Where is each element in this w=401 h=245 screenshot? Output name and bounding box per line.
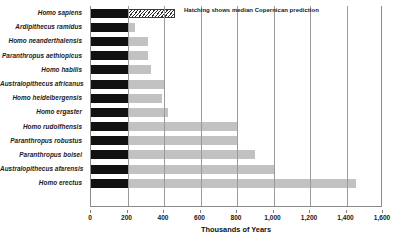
bar-segment-total [128, 108, 168, 117]
bar-segment-elapsed [91, 80, 128, 89]
bar-segment-elapsed [91, 94, 128, 103]
bar-row [91, 20, 381, 34]
x-axis-tick-label: 200 [121, 214, 132, 221]
category-label: Paranthropus aethiopicus [0, 49, 86, 63]
gridline [164, 6, 165, 206]
bar-segment-total [128, 37, 148, 46]
bar-segment-elapsed [91, 165, 128, 174]
x-axis-tick-mark [236, 210, 237, 213]
gridline [347, 6, 348, 206]
bar-segment-total [128, 94, 163, 103]
bar-segment-total [128, 122, 238, 131]
bar-row [91, 34, 381, 48]
bar-row [91, 49, 381, 63]
x-axis-tick-mark [382, 210, 383, 213]
x-axis-tick-label: 1,400 [337, 214, 354, 221]
x-axis-tick-label: 600 [194, 214, 205, 221]
gridline [237, 6, 238, 206]
x-axis-tick-label: 800 [230, 214, 241, 221]
bar-segment-elapsed [91, 65, 128, 74]
x-axis-line [90, 206, 382, 207]
bar-row [91, 176, 381, 190]
bar-segment-total [128, 80, 165, 89]
bar-segment-copernican-prediction [128, 9, 175, 18]
bar-segment-elapsed [91, 179, 128, 188]
bar-segment-elapsed [91, 150, 128, 159]
bar-row [91, 148, 381, 162]
bar-segment-total [128, 51, 148, 60]
bar-row [91, 63, 381, 77]
hatching-annotation: Hatching shows median Copernican predict… [184, 7, 319, 13]
bar-segment-elapsed [91, 9, 128, 18]
category-label: Homo ergaster [0, 105, 86, 119]
bar-row [91, 91, 381, 105]
bar-segment-elapsed [91, 108, 128, 117]
category-label: Australopithecus afarensis [0, 162, 86, 176]
category-label: Homo habilis [0, 63, 86, 77]
bar-row [91, 162, 381, 176]
category-label: Paranthropus boisei [0, 148, 86, 162]
gridline [201, 6, 202, 206]
bar-segment-elapsed [91, 122, 128, 131]
x-axis-tick-labels: 02004006008001,0001,2001,4001,600 [90, 210, 382, 222]
x-axis-tick-mark [309, 210, 310, 213]
bar-segment-total [128, 23, 135, 32]
category-label: Australopithecus africanus [0, 77, 86, 91]
x-axis-tick-mark [127, 210, 128, 213]
x-axis-tick-label: 0 [88, 214, 92, 221]
bar-row [91, 134, 381, 148]
bar-segment-total [128, 136, 238, 145]
category-label: Homo rudolfhensis [0, 120, 86, 134]
chart-container: Homo sapiensArdipithecus ramidusHomo nea… [0, 0, 401, 245]
bar-row [91, 120, 381, 134]
category-label: Paranthropus robustus [0, 134, 86, 148]
category-label: Ardipithecus ramidus [0, 20, 86, 34]
bar-segment-elapsed [91, 51, 128, 60]
gridline [128, 6, 129, 206]
category-label: Homo erectus [0, 176, 86, 190]
x-axis-title: Thousands of Years [90, 225, 382, 234]
bar-segment-elapsed [91, 37, 128, 46]
category-label: Homo sapiens [0, 6, 86, 20]
x-axis-tick-label: 1,600 [374, 214, 391, 221]
category-axis-labels: Homo sapiensArdipithecus ramidusHomo nea… [0, 6, 86, 190]
x-axis-tick-mark [273, 210, 274, 213]
x-axis-tick-mark [200, 210, 201, 213]
gridline [310, 6, 311, 206]
category-label: Homo neanderthalensis [0, 34, 86, 48]
gridline [274, 6, 275, 206]
x-axis-tick-label: 1,000 [264, 214, 281, 221]
bar-segment-total [128, 65, 152, 74]
bar-segment-elapsed [91, 23, 128, 32]
x-axis-tick-mark [163, 210, 164, 213]
x-axis-tick-label: 1,200 [301, 214, 318, 221]
plot-area [90, 6, 382, 206]
bar-segment-total [128, 179, 356, 188]
bar-rows [91, 6, 381, 206]
x-axis-tick-mark [90, 210, 91, 213]
bar-row [91, 105, 381, 119]
x-axis-tick-label: 400 [157, 214, 168, 221]
category-label: Homo heidelbergensis [0, 91, 86, 105]
x-axis-tick-mark [346, 210, 347, 213]
bar-segment-elapsed [91, 136, 128, 145]
bar-row [91, 77, 381, 91]
